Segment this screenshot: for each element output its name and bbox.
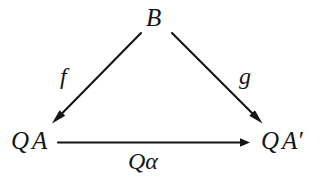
- edge-label-q-alpha: Qα: [128, 149, 158, 173]
- edge-qalpha-q: Q: [128, 148, 145, 174]
- commutative-diagram: B QA QA′ f g Qα: [0, 0, 321, 184]
- prime-mark: ′: [297, 127, 302, 154]
- edge-label-g: g: [239, 64, 251, 88]
- node-label-qa-prime: QA′: [261, 128, 303, 153]
- node-label-b: B: [146, 5, 162, 30]
- node-qaprime-a: A: [282, 127, 297, 154]
- node-label-qa: QA: [11, 128, 47, 153]
- edge-label-f: f: [60, 64, 67, 88]
- node-qa-a: A: [32, 127, 47, 154]
- arrow-q-alpha: [58, 138, 250, 147]
- node-qa-q: Q: [11, 127, 29, 154]
- edge-qalpha-alpha: α: [145, 148, 158, 174]
- node-qaprime-q: Q: [261, 127, 279, 154]
